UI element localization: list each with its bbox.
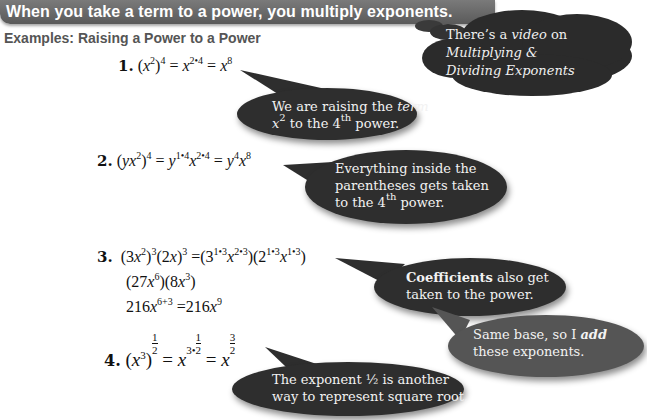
example-3-line-2: (27x6)(8x3) [126, 273, 196, 291]
video-note-line3: Dividing Exponents [446, 62, 575, 80]
example-1-expression: 1. (x2)4 = x2•4 = x8 [118, 57, 232, 75]
video-note-line1: There’s a video on [446, 26, 575, 44]
page-title: When you take a term to a power, you mul… [6, 3, 453, 21]
example-3-add-note-bubble: Same base, so I add these exponents. [448, 315, 644, 377]
section-subtitle: Examples: Raising a Power to a Power [4, 30, 261, 46]
example-4-expression: 4. (x3)12 = x3•12 = x32 [104, 332, 235, 371]
video-note-cloud[interactable]: There’s a video on Multiplying & Dividin… [422, 4, 644, 98]
example-4-note-bubble: The exponent ½ is another way to represe… [232, 362, 464, 416]
example-3-line-1: 3. (3x2)3(2x)3 =(31•3x2•3)(21•3x1•3) [97, 248, 306, 266]
example-3-line-3: 216x6+3 =216x9 [126, 298, 222, 316]
example-2-expression: 2. (yx2)4 = y1•4x2•4 = y4x8 [97, 152, 251, 170]
video-note-line2: Multiplying & [446, 44, 575, 62]
example-2-note-bubble: Everything inside the parentheses gets t… [305, 150, 507, 224]
example-1-note-bubble: We are raising the term x2 to the 4th po… [237, 88, 417, 140]
